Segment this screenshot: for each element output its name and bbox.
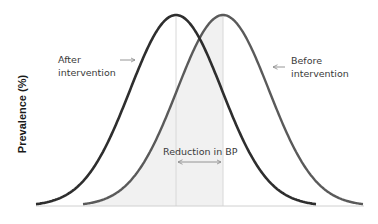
before-label-line1: Before	[291, 54, 349, 67]
plot-area	[0, 0, 378, 224]
reduction-in-bp-label: Reduction in BP	[163, 145, 237, 158]
before-intervention-label: Before intervention	[291, 54, 349, 80]
before-label-line2: intervention	[291, 67, 349, 80]
after-label-line2: intervention	[58, 66, 116, 79]
y-axis-label: Prevalence (%)	[16, 75, 28, 153]
bell-curve-diagram: Prevalence (%) After intervention Before…	[0, 0, 378, 224]
after-intervention-label: After intervention	[58, 53, 116, 79]
after-label-line1: After	[58, 53, 116, 66]
